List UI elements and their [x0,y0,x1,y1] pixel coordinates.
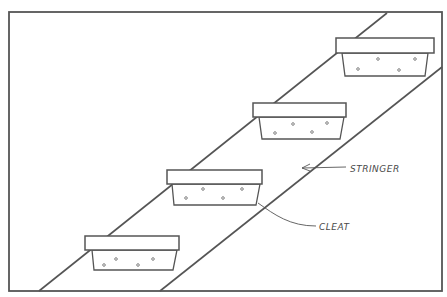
cleat-callout: CLEAT [258,203,350,232]
cleat [342,53,428,76]
cleat [172,184,260,205]
stringer-leader-line [302,167,346,168]
step-1 [85,236,179,270]
tread [167,170,262,184]
tread [336,38,434,53]
stair-diagram: STRINGER CLEAT [0,0,447,297]
cleat [259,117,344,139]
steps [85,38,434,270]
stringer-callout: STRINGER [302,164,400,174]
step-4 [336,38,434,76]
step-2 [167,170,262,205]
step-3 [253,103,346,139]
tread [253,103,346,117]
tread [85,236,179,250]
cleat-label: CLEAT [319,222,350,232]
cleat [92,250,177,270]
stringer-label: STRINGER [350,164,400,174]
